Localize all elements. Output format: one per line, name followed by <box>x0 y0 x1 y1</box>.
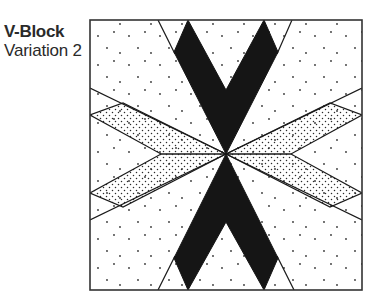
quilt-block-diagram <box>0 0 372 296</box>
